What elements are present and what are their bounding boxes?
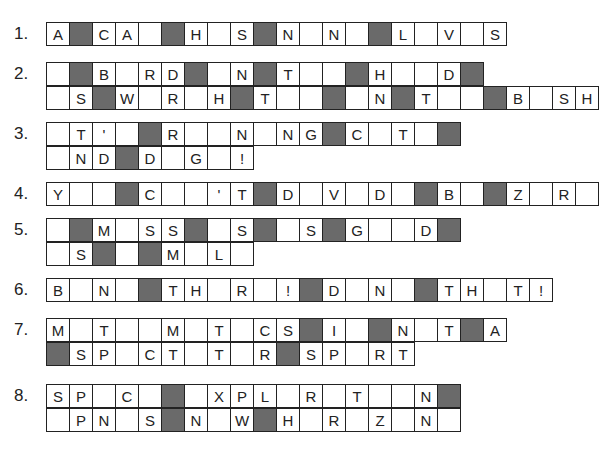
- empty-letter-cell[interactable]: [115, 218, 139, 242]
- empty-letter-cell[interactable]: [575, 182, 599, 206]
- empty-letter-cell[interactable]: [368, 122, 392, 146]
- empty-letter-cell[interactable]: [115, 62, 139, 86]
- empty-letter-cell[interactable]: [460, 22, 484, 46]
- empty-letter-cell[interactable]: [138, 86, 162, 110]
- empty-letter-cell[interactable]: [69, 182, 93, 206]
- empty-letter-cell[interactable]: [299, 182, 323, 206]
- empty-letter-cell[interactable]: [253, 122, 277, 146]
- empty-letter-cell[interactable]: [414, 122, 438, 146]
- empty-letter-cell[interactable]: [529, 86, 553, 110]
- empty-letter-cell[interactable]: [276, 86, 300, 110]
- empty-letter-cell[interactable]: [69, 278, 93, 302]
- empty-letter-cell[interactable]: [368, 218, 392, 242]
- blocked-cell: [322, 122, 346, 146]
- empty-letter-cell[interactable]: [46, 62, 70, 86]
- empty-letter-cell[interactable]: [391, 218, 415, 242]
- empty-letter-cell[interactable]: [46, 408, 70, 432]
- letter-cell: M: [46, 318, 70, 342]
- blocked-cell: [92, 86, 116, 110]
- empty-letter-cell[interactable]: [345, 342, 369, 366]
- empty-letter-cell[interactable]: [437, 86, 461, 110]
- empty-letter-cell[interactable]: [345, 86, 369, 110]
- empty-letter-cell[interactable]: [115, 318, 139, 342]
- empty-letter-cell[interactable]: [391, 182, 415, 206]
- blocked-cell: [138, 278, 162, 302]
- empty-letter-cell[interactable]: [345, 22, 369, 46]
- empty-letter-cell[interactable]: [184, 122, 208, 146]
- empty-letter-cell[interactable]: [207, 122, 231, 146]
- empty-letter-cell[interactable]: [230, 342, 254, 366]
- empty-letter-cell[interactable]: [299, 62, 323, 86]
- empty-letter-cell[interactable]: [46, 146, 70, 170]
- empty-letter-cell[interactable]: [115, 242, 139, 266]
- empty-letter-cell[interactable]: [460, 86, 484, 110]
- empty-letter-cell[interactable]: [345, 182, 369, 206]
- empty-letter-cell[interactable]: [207, 146, 231, 170]
- empty-letter-cell[interactable]: [184, 342, 208, 366]
- empty-letter-cell[interactable]: [207, 218, 231, 242]
- empty-letter-cell[interactable]: [391, 62, 415, 86]
- empty-letter-cell[interactable]: [253, 278, 277, 302]
- empty-letter-cell[interactable]: [276, 384, 300, 408]
- empty-letter-cell[interactable]: [69, 318, 93, 342]
- empty-letter-cell[interactable]: [207, 408, 231, 432]
- empty-letter-cell[interactable]: [230, 318, 254, 342]
- empty-letter-cell[interactable]: [207, 278, 231, 302]
- letter-cell: P: [69, 384, 93, 408]
- empty-letter-cell[interactable]: [115, 342, 139, 366]
- empty-letter-cell[interactable]: [437, 408, 461, 432]
- empty-letter-cell[interactable]: [46, 122, 70, 146]
- empty-letter-cell[interactable]: [184, 318, 208, 342]
- empty-letter-cell[interactable]: [414, 22, 438, 46]
- empty-letter-cell[interactable]: [414, 318, 438, 342]
- blocked-cell: [414, 278, 438, 302]
- empty-letter-cell[interactable]: [299, 86, 323, 110]
- empty-letter-cell[interactable]: [184, 242, 208, 266]
- empty-letter-cell[interactable]: [207, 22, 231, 46]
- letter-cell: N: [414, 384, 438, 408]
- empty-letter-cell[interactable]: [322, 384, 346, 408]
- empty-letter-cell[interactable]: [322, 62, 346, 86]
- empty-letter-cell[interactable]: [138, 22, 162, 46]
- empty-letter-cell[interactable]: [184, 384, 208, 408]
- letter-cell: V: [437, 22, 461, 46]
- empty-letter-cell[interactable]: [460, 182, 484, 206]
- empty-letter-cell[interactable]: [230, 242, 254, 266]
- empty-letter-cell[interactable]: [391, 408, 415, 432]
- empty-letter-cell[interactable]: [345, 278, 369, 302]
- empty-letter-cell[interactable]: [391, 278, 415, 302]
- empty-letter-cell[interactable]: [368, 384, 392, 408]
- empty-letter-cell[interactable]: [414, 62, 438, 86]
- letter-cell: R: [322, 408, 346, 432]
- empty-letter-cell[interactable]: [46, 242, 70, 266]
- empty-letter-cell[interactable]: [46, 218, 70, 242]
- empty-letter-cell[interactable]: [299, 408, 323, 432]
- empty-letter-cell[interactable]: [115, 408, 139, 432]
- empty-letter-cell[interactable]: [115, 122, 139, 146]
- empty-letter-cell[interactable]: [345, 408, 369, 432]
- empty-letter-cell[interactable]: [184, 182, 208, 206]
- empty-letter-cell[interactable]: [345, 318, 369, 342]
- empty-letter-cell[interactable]: [299, 22, 323, 46]
- letter-cell: ': [207, 182, 231, 206]
- letter-cell: T: [414, 86, 438, 110]
- empty-letter-cell[interactable]: [161, 146, 185, 170]
- empty-letter-cell[interactable]: [391, 384, 415, 408]
- empty-letter-cell[interactable]: [161, 182, 185, 206]
- letter-cell: S: [483, 22, 507, 46]
- letter-cell: C: [253, 318, 277, 342]
- empty-letter-cell[interactable]: [276, 218, 300, 242]
- empty-letter-cell[interactable]: [138, 318, 162, 342]
- letter-cell: T: [207, 342, 231, 366]
- empty-letter-cell[interactable]: [138, 384, 162, 408]
- puzzle-row: MSSSSGD: [47, 218, 461, 242]
- empty-letter-cell[interactable]: [207, 62, 231, 86]
- empty-letter-cell[interactable]: [529, 182, 553, 206]
- empty-letter-cell[interactable]: [46, 86, 70, 110]
- empty-letter-cell[interactable]: [92, 182, 116, 206]
- empty-letter-cell[interactable]: [483, 278, 507, 302]
- letter-cell: D: [138, 146, 162, 170]
- empty-letter-cell[interactable]: [115, 278, 139, 302]
- empty-letter-cell[interactable]: [184, 86, 208, 110]
- empty-letter-cell[interactable]: [92, 384, 116, 408]
